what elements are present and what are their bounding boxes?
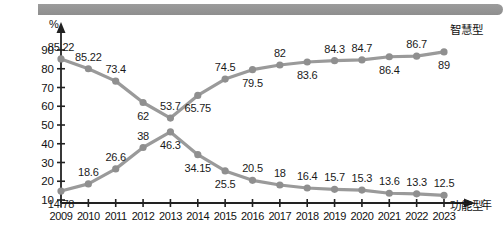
- series-label-feature-phone: 功能型: [450, 197, 483, 213]
- y-axis-tick-label: 20: [41, 175, 54, 187]
- series-label-smartphone: 智慧型: [450, 21, 483, 37]
- data-point-label: 73.4: [105, 63, 126, 75]
- chart-figure: 1020304050607080902009201020112012201320…: [0, 0, 503, 243]
- data-point-label: 62: [137, 110, 149, 122]
- data-point-label: 89: [438, 59, 450, 71]
- data-point-label: 26.6: [105, 151, 126, 163]
- data-point-label: 25.5: [215, 178, 236, 190]
- y-axis-tick-label: 40: [41, 138, 54, 150]
- data-point-label: 84.3: [324, 43, 345, 55]
- data-point-label: 83.6: [297, 69, 318, 81]
- y-axis-tick-label: 30: [41, 157, 54, 169]
- data-point-label: 18: [274, 167, 286, 179]
- data-point-label: 85.22: [48, 41, 75, 53]
- x-axis-tick-label: 2015: [214, 210, 237, 222]
- x-axis-tick-label: 2017: [268, 210, 291, 222]
- x-axis-tick-label: 2013: [159, 210, 182, 222]
- data-point-label: 15.3: [352, 172, 373, 184]
- x-axis-tick-label: 2009: [50, 210, 73, 222]
- data-point-label: 74.5: [215, 61, 236, 73]
- y-axis-tick-label: 60: [41, 100, 54, 112]
- x-axis-tick-label: 2010: [77, 210, 100, 222]
- data-point-label: 82: [274, 47, 286, 59]
- data-point-label: 79.5: [242, 77, 263, 89]
- x-axis-tick-label: 2012: [132, 210, 155, 222]
- x-axis-tick-label: 2011: [105, 210, 127, 222]
- data-point-label: 86.4: [379, 64, 400, 76]
- data-point-label: 86.7: [406, 38, 427, 50]
- x-axis-tick-label: 2019: [323, 210, 346, 222]
- data-point-label: 15.7: [324, 171, 345, 183]
- data-point-label: 53.7: [160, 100, 181, 112]
- data-point-label: 20.5: [242, 162, 263, 174]
- data-point-label: 85.22: [75, 51, 102, 63]
- data-point-label: 12.5: [434, 177, 455, 189]
- data-point-label: 14.78: [48, 198, 75, 210]
- data-point-label: 46.3: [160, 139, 181, 151]
- y-axis-tick-label: 80: [41, 63, 54, 75]
- x-axis-tick-label: 2022: [405, 210, 428, 222]
- data-point-label: 13.3: [406, 176, 427, 188]
- x-axis-tick-label: 2021: [378, 210, 401, 222]
- x-axis-tick-label: 2016: [241, 210, 264, 222]
- data-point-label: 38: [137, 130, 149, 142]
- x-axis-tick-label: 2014: [186, 210, 209, 222]
- x-axis-tick-label: 2020: [350, 210, 373, 222]
- data-point-label: 65.75: [185, 102, 212, 114]
- data-point-label: 16.4: [297, 170, 318, 182]
- data-point-label: 84.7: [352, 42, 373, 54]
- y-axis-tick-label: 50: [41, 119, 54, 131]
- x-axis-tick-label: 2018: [296, 210, 319, 222]
- data-point-label: 13.6: [379, 175, 400, 187]
- y-axis-tick-label: 70: [41, 82, 54, 94]
- chart-canvas: [0, 0, 503, 243]
- data-point-label: 34.15: [185, 162, 212, 174]
- y-axis-title: %: [49, 18, 59, 30]
- data-point-label: 18.6: [78, 166, 99, 178]
